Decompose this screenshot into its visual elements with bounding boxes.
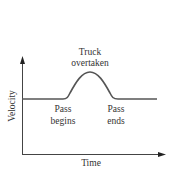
peak-label-line2: overtaken (71, 58, 109, 68)
y-axis-arrow-icon (20, 56, 25, 64)
peak-label-line1: Truck (79, 47, 102, 57)
velocity-time-diagram: Truck overtaken Pass begins Pass ends Ti… (0, 0, 183, 177)
pass-ends-label-line1: Pass (108, 104, 125, 114)
x-axis-arrow-icon (158, 152, 166, 157)
velocity-curve (22, 72, 157, 99)
y-axis-label: Velocity (7, 90, 17, 122)
pass-begins-label-line2: begins (51, 116, 76, 126)
pass-ends-label-line2: ends (107, 116, 125, 126)
x-axis-label: Time (81, 158, 101, 168)
pass-begins-label-line1: Pass (55, 104, 72, 114)
